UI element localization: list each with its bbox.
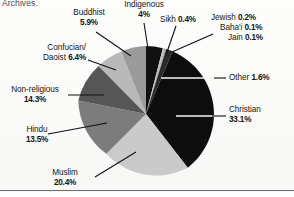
callout-hindu[interactable]: Hindu 13.5% xyxy=(12,125,62,144)
callout-christian[interactable]: Christian 33.1% xyxy=(229,105,261,124)
callout-buddhist[interactable]: Buddhist 5.9% xyxy=(58,8,120,27)
leader-line-buddhist xyxy=(96,32,131,56)
callout-sikh-value: 0.4% xyxy=(178,15,196,24)
callout-other-value: 1.6% xyxy=(251,73,269,82)
callout-bahai-value: 0.1% xyxy=(244,23,262,32)
callout-leader-lines-dark-outside xyxy=(212,78,226,116)
callout-confucian-value: 6.4% xyxy=(68,53,86,62)
callout-non-religious[interactable]: Non-religious 14.3% xyxy=(3,85,67,104)
callout-non-religious-label: Non-religious xyxy=(11,85,59,94)
callout-muslim-value: 20.4% xyxy=(54,178,76,187)
callout-jewish-value: 0.2% xyxy=(238,13,256,22)
callout-confucian-daoist[interactable]: Confucian/ Daoist 6.4% xyxy=(8,43,86,62)
callout-hindu-label: Hindu xyxy=(26,125,47,134)
callout-christian-value: 33.1% xyxy=(229,115,251,124)
callout-indigenous-value: 4% xyxy=(138,10,149,19)
callout-christian-label: Christian xyxy=(229,105,261,114)
pie-slices xyxy=(78,46,214,175)
page-bottom-margin xyxy=(0,192,294,197)
callout-jewish[interactable]: Jewish 0.2% xyxy=(211,13,256,23)
callout-jewish-label: Jewish xyxy=(211,13,236,22)
callout-buddhist-label: Buddhist xyxy=(73,8,104,17)
callout-muslim-label: Muslim xyxy=(52,168,78,177)
callout-indigenous-label: Indigenous xyxy=(124,0,164,9)
callout-confucian-label-line2: Daoist xyxy=(43,53,66,62)
callout-buddhist-value: 5.9% xyxy=(80,18,98,27)
callout-other-label: Other xyxy=(229,73,249,82)
page-bottom-rule xyxy=(0,190,294,191)
callout-other[interactable]: Other 1.6% xyxy=(229,73,269,83)
callout-hindu-value: 13.5% xyxy=(26,135,48,144)
callout-jain[interactable]: Jain 0.1% xyxy=(228,33,263,43)
scanned-page: Archives. xyxy=(0,0,294,197)
callout-sikh-label: Sikh xyxy=(160,15,176,24)
callout-confucian-label-line1: Confucian/ xyxy=(47,43,86,52)
callout-non-religious-value: 14.3% xyxy=(24,95,46,104)
leader-line-jewish-group xyxy=(172,34,213,52)
callout-muslim[interactable]: Muslim 20.4% xyxy=(35,168,95,187)
callout-jain-label: Jain xyxy=(228,33,243,42)
callout-bahai-label: Baha'i xyxy=(220,23,242,32)
callout-sikh[interactable]: Sikh 0.4% xyxy=(160,15,196,25)
callout-bahai[interactable]: Baha'i 0.1% xyxy=(220,23,262,33)
callout-jain-value: 0.1% xyxy=(245,33,263,42)
